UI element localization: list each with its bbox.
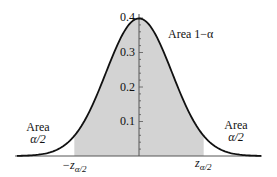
neg-z-symbol: −z bbox=[62, 158, 75, 172]
y-tick-label-0.1: 0.1 bbox=[120, 114, 135, 128]
neg-z-subscript: α/2 bbox=[75, 164, 87, 174]
normal-distribution-chart: 0.4 0.3 0.2 0.1 Area 1−α Area α/2 Area α… bbox=[0, 0, 277, 177]
center-area-label: Area 1−α bbox=[168, 27, 214, 41]
y-tick-label-0.4: 0.4 bbox=[120, 10, 135, 24]
y-tick-label-0.3: 0.3 bbox=[120, 45, 135, 59]
left-tail-label-line2: α/2 bbox=[30, 132, 46, 146]
pos-critical-value-label: zα/2 bbox=[194, 156, 212, 172]
pos-z-subscript: α/2 bbox=[200, 162, 212, 172]
right-tail-label-line2: α/2 bbox=[228, 130, 244, 144]
y-tick-label-0.2: 0.2 bbox=[120, 80, 135, 94]
neg-critical-value-label: −zα/2 bbox=[62, 158, 87, 174]
